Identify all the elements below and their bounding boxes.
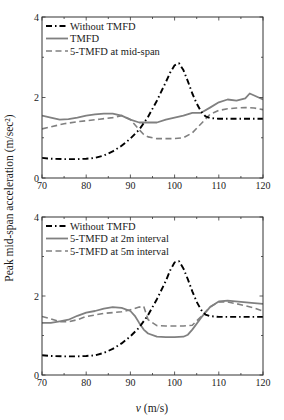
y-tick-label: 0 <box>34 173 39 184</box>
x-tick-label: 80 <box>81 180 91 191</box>
legend: Without TMFDTMFD5-TMFD at mid-span <box>46 21 161 57</box>
x-axis-unit: (m/s) <box>144 402 168 415</box>
legend-label: 5-TMFD at mid-span <box>70 46 161 57</box>
x-tick-label: 120 <box>256 377 271 388</box>
chart-panel-1: 708090100110120024Without TMFDTMFD5-TMFD… <box>34 12 271 192</box>
x-tick-label: 110 <box>211 377 226 388</box>
figure: 708090100110120024Without TMFDTMFD5-TMFD… <box>0 0 284 420</box>
legend-item: 5-TMFD at 2m interval <box>46 233 169 244</box>
y-tick-label: 2 <box>34 291 39 302</box>
x-axis-title: v (m/s) <box>136 402 168 415</box>
x-tick-label: 80 <box>81 377 91 388</box>
legend-label: 5-TMFD at 5m interval <box>70 246 169 257</box>
x-tick-label: 110 <box>211 180 226 191</box>
y-tick-label: 0 <box>34 370 39 381</box>
series-group <box>42 63 263 159</box>
y-tick-label: 4 <box>34 212 39 223</box>
legend-item: TMFD <box>46 33 100 44</box>
series-line-without-tmfd <box>42 261 263 356</box>
legend: Without TMFD5-TMFD at 2m interval5-TMFD … <box>46 221 169 257</box>
chart-panel-2: 708090100110120024Without TMFD5-TMFD at … <box>34 212 271 389</box>
legend-label: Without TMFD <box>70 221 136 232</box>
legend-label: 5-TMFD at 2m interval <box>70 233 169 244</box>
x-axis-variable: v <box>136 402 142 414</box>
x-tick-label: 100 <box>167 377 182 388</box>
x-tick-label: 90 <box>125 180 135 191</box>
x-tick-label: 100 <box>167 180 182 191</box>
x-tick-label: 90 <box>125 377 135 388</box>
series-group <box>42 261 263 356</box>
legend-item: 5-TMFD at 5m interval <box>46 246 169 257</box>
y-tick-label: 4 <box>34 12 39 23</box>
y-axis-title: Peak mid-span acceleration (m/sec²) <box>3 114 16 281</box>
chart-canvas: 708090100110120024Without TMFDTMFD5-TMFD… <box>0 0 284 420</box>
legend-item: Without TMFD <box>46 21 136 32</box>
x-tick-label: 120 <box>256 180 271 191</box>
y-tick-label: 2 <box>34 92 39 103</box>
series-line-without-tmfd <box>42 63 263 159</box>
legend-item: 5-TMFD at mid-span <box>46 46 161 57</box>
legend-item: Without TMFD <box>46 221 136 232</box>
legend-label: TMFD <box>70 33 100 44</box>
legend-label: Without TMFD <box>70 21 136 32</box>
